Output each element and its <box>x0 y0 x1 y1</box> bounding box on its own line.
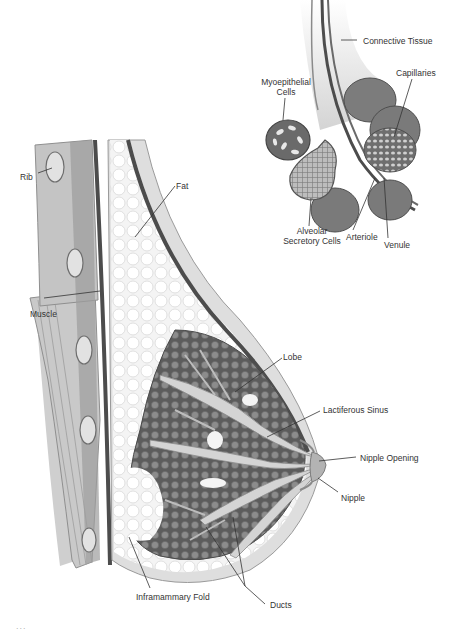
fat-island <box>207 431 223 449</box>
label-nipple-opening: Nipple Opening <box>360 453 419 463</box>
rib <box>67 249 83 277</box>
label-muscle: Muscle <box>30 309 57 319</box>
capillary-network <box>364 128 416 172</box>
leader-nipple-opening <box>319 457 356 461</box>
leader-nipple <box>318 478 338 492</box>
rib <box>76 336 92 364</box>
lobule-inset <box>266 0 420 232</box>
label-lactiferous-sinus: Lactiferous Sinus <box>323 405 388 415</box>
myoepithelial-alveolus <box>266 120 310 160</box>
label-myoepithelial-line1: Myoepithelial <box>261 77 311 87</box>
label-nipple: Nipple <box>341 493 365 503</box>
label-alveolar-secretory-cells: Alveolar Secretory Cells <box>278 226 346 246</box>
label-connective-tissue: Connective Tissue <box>363 36 432 46</box>
label-rib: Rib <box>20 172 33 182</box>
breast-cross-section <box>30 140 326 583</box>
figure-caption-cropped: ... <box>16 621 27 631</box>
label-venule: Venule <box>384 240 410 250</box>
nipple <box>310 452 326 482</box>
label-myoepithelial-cells: Myoepithelial Cells <box>258 77 314 97</box>
leader-myoepithelial <box>283 98 285 120</box>
rib <box>80 416 96 444</box>
label-myoepithelial-line2: Cells <box>277 87 296 97</box>
rib <box>82 528 96 552</box>
rib <box>46 152 64 182</box>
diagram-canvas <box>0 0 452 632</box>
fat-island <box>242 394 258 406</box>
breast-anatomy-diagram: Rib Fat Muscle Lobe Lactiferous Sinus Ni… <box>0 0 452 632</box>
label-capillaries: Capillaries <box>396 68 436 78</box>
label-alveolar-line1: Alveolar <box>297 226 328 236</box>
label-arteriole: Arteriole <box>346 232 378 242</box>
label-ducts: Ducts <box>270 600 292 610</box>
label-inframammary-fold: Inframammary Fold <box>136 592 210 602</box>
label-alveolar-line2: Secretory Cells <box>283 236 341 246</box>
label-lobe: Lobe <box>283 352 302 362</box>
fat-island <box>200 478 226 488</box>
alveolus <box>368 180 412 220</box>
label-fat: Fat <box>176 181 188 191</box>
